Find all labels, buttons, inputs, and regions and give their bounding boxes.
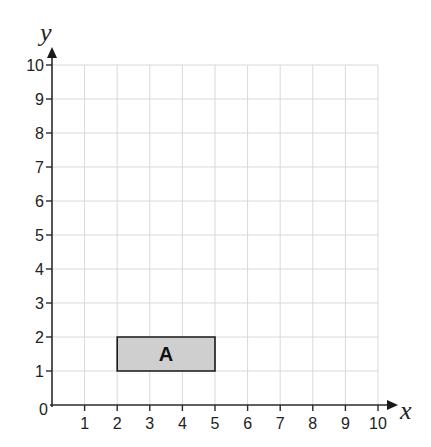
x-tick-label: 6	[243, 415, 252, 432]
coordinate-grid: A 12345678910 12345678910 0 x y	[0, 0, 431, 447]
y-axis-title: y	[37, 18, 52, 47]
y-tick-label: 5	[35, 227, 44, 244]
x-tick-label: 8	[308, 415, 317, 432]
y-tick-label: 3	[35, 295, 44, 312]
x-tick-label: 9	[341, 415, 350, 432]
y-tick-label: 1	[35, 363, 44, 380]
shapes-layer: A	[117, 337, 215, 371]
x-tick-label: 4	[178, 415, 187, 432]
x-axis-arrow-icon	[387, 400, 398, 410]
x-tick-label: 3	[145, 415, 154, 432]
x-tick-label: 10	[369, 415, 387, 432]
x-axis-ticks: 12345678910	[80, 405, 387, 432]
y-tick-label: 8	[35, 125, 44, 142]
y-axis-ticks: 12345678910	[26, 57, 52, 380]
x-tick-label: 7	[276, 415, 285, 432]
shape-label: A	[159, 343, 173, 365]
x-tick-label: 1	[80, 415, 89, 432]
y-tick-label: 2	[35, 329, 44, 346]
x-tick-label: 5	[211, 415, 220, 432]
y-tick-label: 6	[35, 193, 44, 210]
y-axis-arrow-icon	[47, 47, 57, 58]
origin-label: 0	[39, 401, 48, 418]
x-axis-title: x	[399, 396, 412, 425]
y-tick-label: 4	[35, 261, 44, 278]
y-tick-label: 10	[26, 57, 44, 74]
y-tick-label: 9	[35, 91, 44, 108]
x-tick-label: 2	[113, 415, 122, 432]
y-tick-label: 7	[35, 159, 44, 176]
